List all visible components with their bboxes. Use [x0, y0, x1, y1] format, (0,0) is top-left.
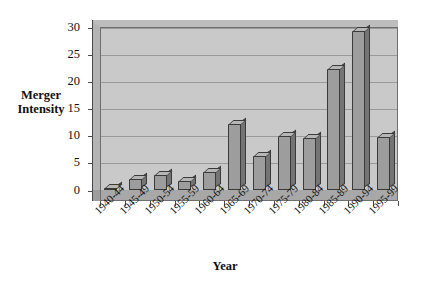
bar-face	[303, 138, 316, 190]
y-tick-label-0: 0	[58, 183, 80, 198]
bar-face	[278, 136, 291, 190]
bar-face	[352, 31, 365, 190]
x-tick-mark-end	[398, 201, 399, 206]
bar-1995-99	[377, 137, 390, 190]
y-tick-mark-30	[88, 28, 93, 29]
bar-1985-89	[327, 69, 340, 190]
y-axis-title-line-1: Merger	[0, 88, 82, 102]
y-tick-mark-10	[88, 136, 93, 137]
bar-side	[291, 129, 296, 187]
x-axis-title: Year	[0, 259, 426, 274]
y-tick-label-10: 10	[58, 128, 80, 143]
y-tick-mark-5	[88, 163, 93, 164]
bar-series	[100, 27, 398, 201]
bar-face	[327, 69, 340, 190]
y-axis-line	[92, 20, 93, 201]
bar-1975-79	[278, 136, 291, 190]
y-tick-mark-20	[88, 82, 93, 83]
bar-side	[390, 131, 395, 187]
y-tick-mark-0	[88, 191, 93, 192]
y-tick-label-15: 15	[58, 101, 80, 116]
bar-side	[241, 117, 246, 187]
plot-wall-left	[92, 20, 100, 190]
y-tick-label-5: 5	[58, 155, 80, 170]
bar-side	[340, 62, 345, 187]
y-tick-label-20: 20	[58, 74, 80, 89]
bar-face	[377, 137, 390, 190]
y-tick-mark-15	[88, 109, 93, 110]
bar-1965-69	[228, 124, 241, 190]
bar-side	[316, 132, 321, 187]
merger-intensity-bar-chart: Merger Intensity 051015202530 1940-44194…	[0, 0, 426, 291]
y-tick-label-30: 30	[58, 20, 80, 35]
y-tick-mark-25	[88, 55, 93, 56]
bar-face	[228, 124, 241, 190]
bar-1980-84	[303, 138, 316, 190]
bar-side	[365, 25, 370, 187]
y-tick-label-25: 25	[58, 47, 80, 62]
bar-1990-94	[352, 31, 365, 190]
